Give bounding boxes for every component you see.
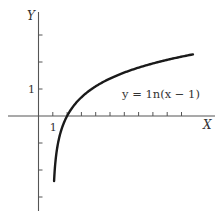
axes [8, 12, 215, 211]
x-tick-label-1: 1 [50, 121, 57, 134]
y-axis-label: Y [27, 9, 36, 23]
y-tick-label-1: 1 [28, 83, 35, 96]
equation-annotation: y = 1n(x − 1) [121, 87, 200, 101]
curve-ln-x-minus-1 [54, 54, 193, 181]
x-axis-label: X [202, 118, 212, 132]
function-plot: X Y 1 1 y = 1n(x − 1) [0, 0, 221, 220]
